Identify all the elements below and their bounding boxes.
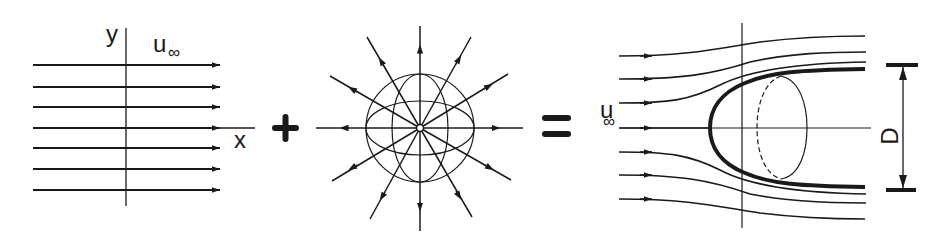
velocity-subscript-right: ∞ (603, 112, 615, 131)
x-axis-label: x (234, 126, 246, 153)
point-source-panel (316, 26, 523, 231)
dimension-label-D: D (876, 127, 903, 144)
half-body-panel (619, 23, 918, 228)
source-point (417, 125, 424, 132)
plus-operator (275, 117, 296, 139)
velocity-subscript-left: ∞ (168, 43, 180, 62)
y-axis-label: y (106, 20, 118, 47)
equals-operator (545, 118, 568, 134)
flow-superposition-diagram: y x u ∞ (0, 0, 948, 251)
inflow-arrows (640, 56, 652, 199)
uniform-flow-panel (33, 28, 255, 206)
velocity-label-left: u (153, 30, 166, 57)
